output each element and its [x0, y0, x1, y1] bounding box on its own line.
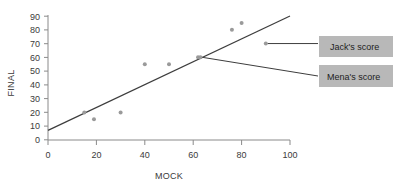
y-tick-label-60: 60 — [30, 53, 40, 63]
y-tick-label-10: 10 — [30, 121, 40, 131]
y-tick-label-40: 40 — [30, 80, 40, 90]
y-tick-label-80: 80 — [30, 25, 40, 35]
menas-score-callout[interactable]: Mena's score — [319, 65, 393, 87]
jacks-score-callout[interactable]: Jack's score — [319, 36, 393, 57]
data-point — [167, 62, 171, 66]
data-point — [240, 21, 244, 25]
jacks-score-callout-label: Jack's score — [330, 42, 379, 52]
data-point — [143, 62, 147, 66]
y-tick-label-50: 50 — [30, 66, 40, 76]
y-axis-ticks — [44, 16, 48, 140]
y-tick-label-90: 90 — [30, 12, 40, 22]
x-tick-label-20: 20 — [91, 150, 101, 160]
y-tick-label-20: 20 — [30, 108, 40, 118]
data-point — [119, 110, 123, 114]
y-tick-label-70: 70 — [30, 39, 40, 49]
data-point — [92, 117, 96, 121]
x-tick-label-80: 80 — [237, 150, 247, 160]
x-tick-label-40: 40 — [140, 150, 150, 160]
data-point-group — [82, 21, 267, 121]
data-point — [264, 42, 268, 46]
chart-canvas: 90 80 70 60 50 40 30 20 10 0 0 20 40 60 … — [0, 0, 395, 194]
menas-score-leader-line — [202, 57, 318, 76]
x-tick-label-100: 100 — [282, 150, 297, 160]
x-tick-label-0: 0 — [45, 150, 50, 160]
data-point — [230, 28, 234, 32]
x-tick-label-60: 60 — [188, 150, 198, 160]
y-tick-label-30: 30 — [30, 94, 40, 104]
y-tick-label-0: 0 — [35, 135, 40, 145]
scatter-plot-figure: 90 80 70 60 50 40 30 20 10 0 0 20 40 60 … — [0, 0, 395, 194]
x-axis-title: MOCK — [155, 171, 183, 181]
data-point — [82, 110, 86, 114]
data-point — [198, 55, 202, 59]
y-axis-title: FINAL — [6, 69, 16, 96]
x-axis-ticks — [48, 140, 290, 145]
menas-score-callout-label: Mena's score — [327, 72, 380, 82]
